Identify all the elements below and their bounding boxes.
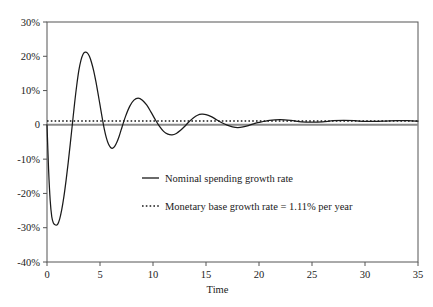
x-axis-tick-label: 25 <box>307 269 318 280</box>
x-axis-tick-label: 15 <box>201 269 212 280</box>
legend-label-monetary-base: Monetary base growth rate = 1.11% per ye… <box>165 201 353 212</box>
x-axis-tick-label: 35 <box>413 269 424 280</box>
x-axis-title: Time <box>207 284 229 295</box>
y-axis-tick-label: 0 <box>35 119 40 130</box>
damped-oscillation-chart: 30%20%10%0-10%-20%-30%-40%05101520253035… <box>0 0 433 307</box>
y-axis-tick-label: -30% <box>17 222 40 233</box>
y-axis-tick-label: -20% <box>17 188 40 199</box>
y-axis-tick-label: -10% <box>17 154 40 165</box>
x-axis-tick-label: 20 <box>254 269 265 280</box>
x-axis-tick-label: 10 <box>148 269 159 280</box>
y-axis-tick-label: 10% <box>21 85 41 96</box>
x-axis-tick-label: 30 <box>360 269 371 280</box>
legend-label-nominal-spending: Nominal spending growth rate <box>165 173 293 184</box>
x-axis-tick-label: 5 <box>97 269 102 280</box>
y-axis-tick-label: 30% <box>21 17 41 28</box>
plot-frame <box>47 22 418 262</box>
chart-figure: 30%20%10%0-10%-20%-30%-40%05101520253035… <box>0 0 433 307</box>
y-axis-tick-label: -40% <box>17 257 40 268</box>
y-axis-tick-label: 20% <box>21 51 41 62</box>
x-axis-tick-label: 0 <box>44 269 49 280</box>
